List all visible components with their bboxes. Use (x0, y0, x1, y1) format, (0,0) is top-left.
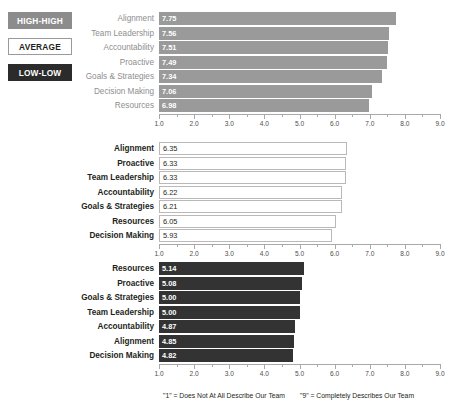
table-row: Proactive 6.33 (0, 157, 440, 170)
category-label: Decision Making (0, 85, 159, 98)
bar-value-label: 5.00 (159, 306, 176, 319)
chart-low-low: Resources 5.14 Proactive 5.08 Goals & St… (0, 262, 440, 382)
axis-tick-label: 6.0 (330, 250, 339, 257)
axis-tick-major (229, 114, 230, 119)
axis-tick-minor (247, 244, 248, 247)
bar: 5.00 (159, 306, 300, 319)
axis-tick-minor (387, 244, 388, 247)
axis-tick-major (440, 244, 441, 249)
axis-tick-major (194, 244, 195, 249)
axis-tick-major (159, 114, 160, 119)
footnote-low-anchor: "1" = Does Not At All Describe Our Team (163, 392, 285, 399)
axis-tick-label: 5.0 (295, 250, 304, 257)
axis-tick-major (264, 244, 265, 249)
axis-tick-major (335, 244, 336, 249)
category-label: Alignment (0, 335, 159, 348)
table-row: Decision Making 7.06 (0, 85, 440, 98)
axis-tick-minor (317, 114, 318, 117)
category-label: Alignment (0, 12, 159, 25)
axis-tick-major (440, 114, 441, 119)
bar-track: 5.08 (159, 277, 440, 290)
axis-tick-label: 7.0 (365, 370, 374, 377)
axis-tick-label: 4.0 (260, 250, 269, 257)
category-label: Team Leadership (0, 27, 159, 40)
bar-track: 6.35 (159, 142, 440, 155)
axis-tick-minor (177, 114, 178, 117)
axis-tick-major (159, 364, 160, 369)
bar: 5.08 (159, 277, 302, 290)
bar-value-label: 6.22 (160, 186, 177, 199)
category-label: Goals & Strategies (0, 200, 159, 213)
axis-tick-label: 5.0 (295, 120, 304, 127)
bar: 6.33 (159, 157, 346, 170)
bar-value-label: 5.08 (159, 277, 176, 290)
bar-value-label: 5.14 (159, 262, 176, 275)
axis-tick-minor (352, 244, 353, 247)
bar-track: 7.75 (159, 12, 440, 25)
bar-track: 7.56 (159, 27, 440, 40)
axis-tick-major (159, 244, 160, 249)
table-row: Goals & Strategies 7.34 (0, 70, 440, 83)
table-row: Alignment 7.75 (0, 12, 440, 25)
category-label: Resources (0, 99, 159, 112)
bar-value-label: 7.49 (159, 56, 176, 69)
bar-track: 6.33 (159, 171, 440, 184)
bar: 4.87 (159, 320, 295, 333)
bar-value-label: 6.33 (160, 157, 177, 170)
table-row: Alignment 4.85 (0, 335, 440, 348)
table-row: Decision Making 4.82 (0, 349, 440, 362)
axis-tick-minor (247, 114, 248, 117)
axis-tick-label: 3.0 (225, 250, 234, 257)
axis-tick-minor (212, 244, 213, 247)
axis-tick-minor (422, 364, 423, 367)
axis-tick-label: 2.0 (190, 370, 199, 377)
category-label: Proactive (0, 56, 159, 69)
bar: 4.85 (159, 335, 294, 348)
bar-value-label: 7.06 (159, 85, 176, 98)
category-label: Goals & Strategies (0, 291, 159, 304)
category-label: Resources (0, 215, 159, 228)
x-axis: 1.02.03.04.05.06.07.08.09.0 (159, 244, 440, 262)
bar: 6.22 (159, 186, 342, 199)
category-label: Decision Making (0, 229, 159, 242)
axis-tick-major (194, 364, 195, 369)
table-row: Team Leadership 5.00 (0, 306, 440, 319)
axis-tick-major (229, 364, 230, 369)
axis-tick-minor (422, 244, 423, 247)
axis-tick-minor (387, 114, 388, 117)
bar: 5.14 (159, 262, 304, 275)
category-label: Team Leadership (0, 171, 159, 184)
category-label: Accountability (0, 186, 159, 199)
bar-value-label: 7.51 (159, 41, 176, 54)
bar: 7.06 (159, 85, 372, 98)
axis-tick-minor (387, 364, 388, 367)
bar-value-label: 7.34 (159, 70, 176, 83)
axis-tick-major (440, 364, 441, 369)
axis-tick-minor (177, 244, 178, 247)
bar-track: 7.49 (159, 56, 440, 69)
bar-track: 6.05 (159, 215, 440, 228)
category-label: Decision Making (0, 349, 159, 362)
table-row: Goals & Strategies 5.00 (0, 291, 440, 304)
axis-tick-major (405, 364, 406, 369)
axis-tick-major (335, 114, 336, 119)
x-axis: 1.02.03.04.05.06.07.08.09.0 (159, 114, 440, 132)
axis-tick-major (335, 364, 336, 369)
axis-tick-label: 7.0 (365, 120, 374, 127)
bar: 6.21 (159, 200, 342, 213)
bar: 7.51 (159, 41, 388, 54)
table-row: Team Leadership 7.56 (0, 27, 440, 40)
bar-track: 4.82 (159, 349, 440, 362)
axis-tick-label: 3.0 (225, 370, 234, 377)
bar-value-label: 6.21 (160, 200, 177, 213)
chart-high-high: Alignment 7.75 Team Leadership 7.56 Acco… (0, 12, 440, 132)
table-row: Resources 6.05 (0, 215, 440, 228)
bar-value-label: 6.98 (159, 99, 176, 112)
category-label: Resources (0, 262, 159, 275)
category-label: Proactive (0, 157, 159, 170)
bar-track: 7.34 (159, 70, 440, 83)
bar: 6.05 (159, 215, 336, 228)
axis-tick-minor (352, 364, 353, 367)
bar-value-label: 6.33 (160, 171, 177, 184)
bar-value-label: 7.75 (159, 12, 176, 25)
